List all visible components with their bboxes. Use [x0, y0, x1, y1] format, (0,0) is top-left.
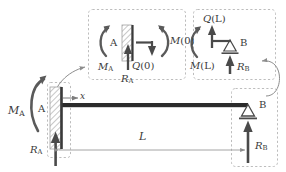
label-detail-left-moment-a: MA	[98, 62, 113, 73]
detail-right-roller	[212, 40, 239, 53]
label-detail-left-a: A	[110, 38, 117, 48]
diagram-canvas	[0, 0, 286, 172]
label-detail-right-shear-ql: Q(L)	[203, 14, 226, 24]
label-point-a-main: A	[38, 104, 45, 114]
label-detail-left-reaction-a: RA	[121, 74, 133, 85]
reaction-b-arrow	[243, 121, 252, 164]
dashed-box-support-b	[232, 89, 278, 167]
label-x-axis: x	[80, 92, 85, 101]
label-span-l: L	[139, 131, 146, 142]
label-detail-right-moment-l: M(L)	[190, 61, 215, 71]
free-body-diagram-figure: MA A x L RA B RB A MA Q(0) RA M(0) Q(L) …	[0, 0, 286, 172]
label-detail-left-shear-q0: Q(0)	[132, 61, 154, 71]
label-point-b-main: B	[259, 100, 266, 110]
detail-left-moment-0-arrow	[158, 25, 168, 56]
label-detail-left-moment-0: M(0)	[170, 36, 194, 46]
label-detail-right-b: B	[240, 38, 247, 48]
label-reaction-a-main: RA	[30, 145, 42, 156]
detail-left-shear-down-arrow	[136, 41, 156, 56]
detail-right-reaction-b-arrow	[226, 55, 235, 74]
label-moment-a-main: MA	[8, 105, 25, 117]
detail-left-moment-a-arrow	[101, 25, 111, 56]
detail-right-shear-ql-arrow	[208, 25, 216, 48]
beam-member	[58, 103, 248, 107]
callout-leader-right	[262, 61, 280, 96]
label-reaction-b-main: RB	[255, 141, 268, 152]
label-detail-right-reaction-b: RB	[237, 62, 250, 73]
